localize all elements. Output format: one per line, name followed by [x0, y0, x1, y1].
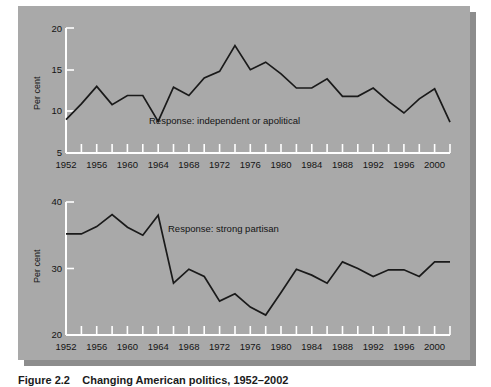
x-tick-label-bottom-1980: 1980 — [270, 341, 291, 352]
x-tick-label-top-1960: 1960 — [117, 159, 138, 170]
x-axis-ticks-bottom — [66, 326, 450, 335]
series-annotation-bottom: Response: strong partisan — [168, 223, 279, 234]
x-axis-tick-labels-bottom: 1952 1956 1960 1964 1968 1972 1976 1980 … — [55, 341, 445, 352]
x-tick-label-top-1996: 1996 — [393, 159, 414, 170]
y-axis-ticks-bottom — [66, 202, 74, 335]
y-axis-ticks-top — [66, 28, 74, 153]
figure-caption-text: Changing American politics, 1952–2002 — [82, 374, 288, 386]
x-tick-label-bottom-1976: 1976 — [240, 341, 261, 352]
data-series-independent-apolitical — [66, 46, 450, 123]
y-tick-label-top-20: 20 — [51, 23, 62, 34]
x-tick-label-bottom-1952: 1952 — [55, 341, 76, 352]
chart-strong-partisan: Per cent 40 30 20 — [18, 188, 470, 356]
x-tick-label-top-1980: 1980 — [270, 159, 291, 170]
x-tick-label-bottom-1984: 1984 — [301, 341, 322, 352]
x-tick-label-top-1952: 1952 — [55, 159, 76, 170]
x-tick-label-top-1968: 1968 — [178, 159, 199, 170]
x-tick-label-bottom-1956: 1956 — [86, 341, 107, 352]
y-tick-label-top-5: 5 — [57, 147, 62, 158]
x-tick-label-bottom-1992: 1992 — [363, 341, 384, 352]
series-annotation-top: Response: independent or apolitical — [149, 115, 300, 126]
x-tick-label-bottom-1960: 1960 — [117, 341, 138, 352]
x-tick-label-top-1976: 1976 — [240, 159, 261, 170]
x-axis-ticks-top — [66, 144, 450, 153]
y-axis-title-bottom: Per cent — [32, 249, 42, 283]
chart-independent-apolitical: Per cent 20 15 10 5 — [18, 10, 470, 184]
chart-bottom-svg: Per cent 40 30 20 — [18, 188, 470, 356]
chart-top-svg: Per cent 20 15 10 5 — [18, 10, 470, 184]
y-tick-label-bottom-40: 40 — [51, 196, 62, 207]
figure-caption: Figure 2.2 Changing American politics, 1… — [18, 374, 478, 387]
x-tick-label-bottom-1972: 1972 — [209, 341, 230, 352]
x-axis-tick-labels-top: 1952 1956 1960 1964 1968 1972 1976 1980 … — [55, 159, 445, 170]
x-tick-label-bottom-1988: 1988 — [332, 341, 353, 352]
x-tick-label-bottom-1996: 1996 — [393, 341, 414, 352]
figure-panel: Per cent 20 15 10 5 — [18, 6, 476, 366]
figure-caption-label: Figure 2.2 — [18, 374, 70, 386]
x-tick-label-top-1972: 1972 — [209, 159, 230, 170]
x-tick-label-bottom-1964: 1964 — [148, 341, 169, 352]
y-tick-label-bottom-30: 30 — [51, 263, 62, 274]
y-axis-title-top: Per cent — [32, 76, 42, 110]
x-tick-label-top-2000: 2000 — [424, 159, 445, 170]
x-tick-label-bottom-2000: 2000 — [424, 341, 445, 352]
x-tick-label-top-1988: 1988 — [332, 159, 353, 170]
y-tick-label-top-15: 15 — [51, 64, 62, 75]
x-tick-label-top-1992: 1992 — [363, 159, 384, 170]
x-tick-label-top-1984: 1984 — [301, 159, 322, 170]
y-tick-label-bottom-20: 20 — [51, 329, 62, 340]
y-tick-label-top-10: 10 — [51, 105, 62, 116]
x-tick-label-top-1956: 1956 — [86, 159, 107, 170]
x-tick-label-top-1964: 1964 — [148, 159, 169, 170]
x-tick-label-bottom-1968: 1968 — [178, 341, 199, 352]
